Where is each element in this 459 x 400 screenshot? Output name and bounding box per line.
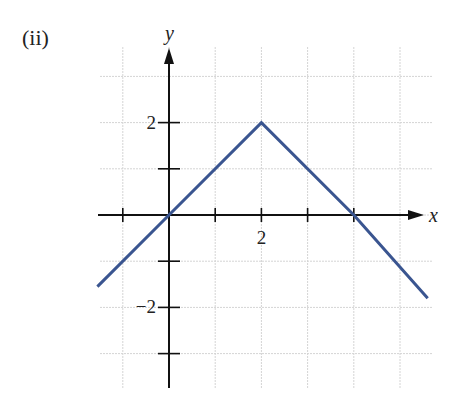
y-tick-label: −2: [136, 296, 156, 317]
x-axis-arrow-icon: [408, 210, 424, 220]
series-line: [97, 123, 427, 299]
grid: [100, 47, 432, 388]
series: [97, 123, 427, 299]
chart: 22−2 x y: [0, 0, 459, 400]
y-axis-arrow-icon: [164, 48, 174, 64]
y-axis-label: y: [163, 22, 174, 45]
x-tick-label: 2: [257, 227, 267, 248]
ticks: [123, 123, 354, 354]
x-axis-label: x: [428, 204, 438, 226]
y-tick-label: 2: [147, 112, 157, 133]
